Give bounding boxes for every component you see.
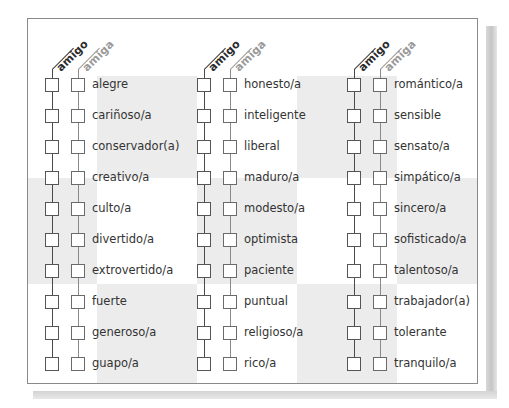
amigo-checkbox[interactable]: [347, 171, 361, 185]
adjective-checklist-frame: amigoamigaalegrecariñoso/aconservador(a)…: [27, 18, 478, 384]
amigo-checkbox[interactable]: [45, 326, 59, 340]
amigo-checkbox[interactable]: [197, 78, 211, 92]
amiga-checkbox[interactable]: [223, 264, 237, 278]
amigo-checkbox[interactable]: [197, 326, 211, 340]
amigo-checkbox[interactable]: [347, 295, 361, 309]
adjective-label: paciente: [244, 263, 294, 277]
amiga-checkbox[interactable]: [223, 357, 237, 371]
adjective-row: sincero/a: [330, 202, 480, 216]
amiga-checkbox[interactable]: [373, 78, 387, 92]
adjective-label: sensible: [394, 108, 441, 122]
amiga-checkbox[interactable]: [71, 295, 85, 309]
adjective-label: tolerante: [394, 325, 446, 339]
adjective-label: rico/a: [244, 356, 276, 370]
adjective-label: divertido/a: [92, 232, 154, 246]
amiga-checkbox[interactable]: [71, 140, 85, 154]
adjective-row: trabajador(a): [330, 295, 480, 309]
adjective-label: alegre: [92, 77, 128, 91]
amigo-checkbox[interactable]: [45, 233, 59, 247]
adjective-row: talentoso/a: [330, 264, 480, 278]
amiga-checkbox[interactable]: [373, 326, 387, 340]
amiga-checkbox[interactable]: [223, 109, 237, 123]
adjective-row: culto/a: [28, 202, 178, 216]
amiga-checkbox[interactable]: [373, 233, 387, 247]
amiga-checkbox[interactable]: [223, 233, 237, 247]
adjective-label: tranquilo/a: [394, 356, 457, 370]
adjective-column-3: amigoamigaromántico/asensiblesensato/asi…: [330, 19, 480, 383]
amigo-checkbox[interactable]: [197, 233, 211, 247]
amigo-checkbox[interactable]: [347, 78, 361, 92]
adjective-row: sensible: [330, 109, 480, 123]
adjective-label: puntual: [244, 294, 288, 308]
adjective-label: conservador(a): [92, 139, 179, 153]
amigo-checkbox[interactable]: [347, 140, 361, 154]
adjective-label: talentoso/a: [394, 263, 459, 277]
adjective-label: guapo/a: [92, 356, 139, 370]
amigo-checkbox[interactable]: [197, 109, 211, 123]
amigo-checkbox[interactable]: [347, 326, 361, 340]
amigo-checkbox[interactable]: [197, 357, 211, 371]
amiga-checkbox[interactable]: [223, 202, 237, 216]
amiga-checkbox[interactable]: [373, 140, 387, 154]
amigo-checkbox[interactable]: [45, 171, 59, 185]
amigo-checkbox[interactable]: [197, 202, 211, 216]
amigo-checkbox[interactable]: [347, 233, 361, 247]
adjective-row: optimista: [180, 233, 330, 247]
amiga-checkbox[interactable]: [71, 264, 85, 278]
adjective-label: optimista: [244, 232, 298, 246]
adjective-row: sofisticado/a: [330, 233, 480, 247]
amiga-checkbox[interactable]: [71, 326, 85, 340]
amiga-checkbox[interactable]: [373, 109, 387, 123]
amigo-checkbox[interactable]: [347, 202, 361, 216]
amiga-checkbox[interactable]: [71, 171, 85, 185]
adjective-row: honesto/a: [180, 78, 330, 92]
adjective-row: romántico/a: [330, 78, 480, 92]
frame-shadow-right: [486, 26, 497, 398]
adjective-label: modesto/a: [244, 201, 305, 215]
adjective-label: creativo/a: [92, 170, 149, 184]
adjective-row: simpático/a: [330, 171, 480, 185]
amiga-checkbox[interactable]: [223, 171, 237, 185]
adjective-label: cariñoso/a: [92, 108, 152, 122]
amigo-checkbox[interactable]: [197, 171, 211, 185]
amigo-checkbox[interactable]: [347, 109, 361, 123]
adjective-row: extrovertido/a: [28, 264, 178, 278]
adjective-row: divertido/a: [28, 233, 178, 247]
adjective-label: culto/a: [92, 201, 131, 215]
amigo-checkbox[interactable]: [45, 295, 59, 309]
amiga-checkbox[interactable]: [71, 357, 85, 371]
amigo-checkbox[interactable]: [197, 140, 211, 154]
amigo-checkbox[interactable]: [45, 202, 59, 216]
amiga-checkbox[interactable]: [223, 295, 237, 309]
adjective-label: generoso/a: [92, 325, 156, 339]
adjective-row: paciente: [180, 264, 330, 278]
amigo-checkbox[interactable]: [45, 264, 59, 278]
amiga-checkbox[interactable]: [373, 264, 387, 278]
amigo-checkbox[interactable]: [45, 140, 59, 154]
amiga-checkbox[interactable]: [71, 202, 85, 216]
amiga-checkbox[interactable]: [373, 202, 387, 216]
amiga-checkbox[interactable]: [373, 171, 387, 185]
amigo-checkbox[interactable]: [197, 295, 211, 309]
adjective-row: liberal: [180, 140, 330, 154]
amiga-checkbox[interactable]: [223, 326, 237, 340]
amiga-checkbox[interactable]: [71, 78, 85, 92]
amigo-checkbox[interactable]: [197, 264, 211, 278]
adjective-row: cariñoso/a: [28, 109, 178, 123]
adjective-row: rico/a: [180, 357, 330, 371]
adjective-label: simpático/a: [394, 170, 461, 184]
adjective-label: fuerte: [92, 294, 127, 308]
amigo-checkbox[interactable]: [347, 357, 361, 371]
amigo-checkbox[interactable]: [45, 109, 59, 123]
amiga-checkbox[interactable]: [373, 295, 387, 309]
amiga-checkbox[interactable]: [71, 109, 85, 123]
adjective-label: trabajador(a): [394, 294, 470, 308]
amiga-checkbox[interactable]: [71, 233, 85, 247]
amigo-checkbox[interactable]: [45, 78, 59, 92]
amiga-checkbox[interactable]: [223, 140, 237, 154]
amiga-checkbox[interactable]: [223, 78, 237, 92]
amigo-checkbox[interactable]: [45, 357, 59, 371]
adjective-label: extrovertido/a: [92, 263, 173, 277]
amigo-checkbox[interactable]: [347, 264, 361, 278]
amiga-checkbox[interactable]: [373, 357, 387, 371]
